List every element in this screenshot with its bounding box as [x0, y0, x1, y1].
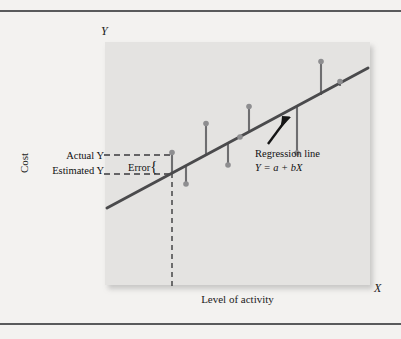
actual-y-label: Actual Y	[36, 150, 104, 161]
x-axis-title: Level of activity	[105, 293, 370, 305]
figure-root: Y X Cost Level of activity Actual Y Esti…	[0, 0, 401, 339]
error-text: Error	[128, 162, 150, 173]
error-label: Error{	[128, 158, 157, 175]
data-point	[169, 150, 175, 156]
error-brace-icon: {	[150, 158, 157, 174]
data-point	[237, 134, 243, 140]
data-point	[203, 121, 209, 127]
data-point	[246, 104, 252, 110]
estimated-y-label: Estimated Y	[18, 165, 104, 176]
axis-label-x: X	[374, 281, 381, 296]
regression-equation: Y = a + bX	[255, 162, 302, 173]
data-point	[337, 79, 343, 85]
data-point	[183, 181, 189, 187]
y-axis-title: Cost	[18, 137, 30, 189]
data-point	[318, 59, 324, 65]
axis-label-y: Y	[101, 24, 108, 39]
regression-line-caption: Regression line	[255, 148, 320, 159]
data-point	[225, 162, 231, 168]
